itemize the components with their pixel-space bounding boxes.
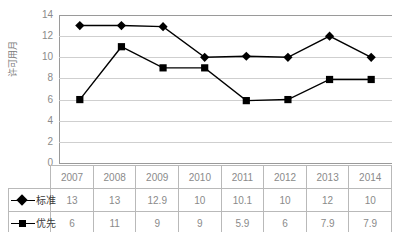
data-point-优先-2009 [159,64,166,71]
legend-item-优先[interactable]: 优先 [9,212,51,233]
data-point-优先-2007 [76,96,83,103]
data-point-标准-2008 [117,21,126,30]
table-cell-优先-2013: 7.9 [306,212,349,233]
diamond-marker-icon [11,195,35,206]
table-header-2012: 2012 [264,166,307,189]
data-table: 20072008200920102011201220132014标准131312… [8,165,392,232]
table-cell-优先-2008: 11 [93,212,136,233]
table-header-2008: 2008 [93,166,136,189]
table-cell-标准-2010: 10 [179,189,222,212]
table-row: 优先611995.967.97.9 [9,212,392,233]
data-point-标准-2007 [75,21,84,30]
legend-item-标准[interactable]: 标准 [9,189,51,212]
data-point-优先-2013 [326,76,333,83]
table-corner-cell [9,166,51,189]
table-cell-优先-2007: 6 [51,212,94,233]
table-cell-优先-2012: 6 [264,212,307,233]
table-cell-优先-2009: 9 [136,212,179,233]
table-header-2009: 2009 [136,166,179,189]
table-cell-优先-2010: 9 [179,212,222,233]
data-point-标准-2011 [242,52,251,61]
table-header-2010: 2010 [179,166,222,189]
square-marker-icon [11,218,35,229]
gridline-0 [59,163,392,164]
table-header-2013: 2013 [306,166,349,189]
table-header-2011: 2011 [221,166,264,189]
data-point-优先-2008 [118,43,125,50]
y-tick-label-10: 10 [1,52,53,62]
y-tick-label-12: 12 [1,31,53,41]
table-cell-标准-2007: 13 [51,189,94,212]
series-line-0 [80,26,371,58]
y-tick-label-14: 14 [1,10,53,20]
series-line-1 [80,47,371,101]
table-cell-标准-2013: 12 [306,189,349,212]
line-chart-with-data-table: 许可用月 14121086420 20072008200920102011201… [0,0,397,232]
table-cell-标准-2012: 10 [264,189,307,212]
table-header-2007: 2007 [51,166,94,189]
y-tick-label-6: 6 [1,95,53,105]
data-point-优先-2012 [284,96,291,103]
table-header-2014: 2014 [349,166,392,189]
plot-area: 14121086420 [59,15,392,163]
y-tick-label-4: 4 [1,116,53,126]
table-header-row: 20072008200920102011201220132014 [9,166,392,189]
table-row: 标准131312.91010.1101210 [9,189,392,212]
data-point-标准-2013 [325,32,334,41]
table-cell-标准-2014: 10 [349,189,392,212]
table-cell-优先-2011: 5.9 [221,212,264,233]
table-cell-标准-2011: 10.1 [221,189,264,212]
y-tick-label-8: 8 [1,73,53,83]
data-point-优先-2011 [243,97,250,104]
data-point-标准-2012 [283,53,292,62]
table-cell-标准-2008: 13 [93,189,136,212]
table-cell-优先-2014: 7.9 [349,212,392,233]
data-point-标准-2014 [367,53,376,62]
data-point-优先-2014 [368,76,375,83]
table-cell-标准-2009: 12.9 [136,189,179,212]
data-point-优先-2010 [201,64,208,71]
legend-label: 优先 [36,218,56,229]
legend-label: 标准 [36,195,56,206]
y-tick-label-2: 2 [1,137,53,147]
series-layer [59,15,392,163]
